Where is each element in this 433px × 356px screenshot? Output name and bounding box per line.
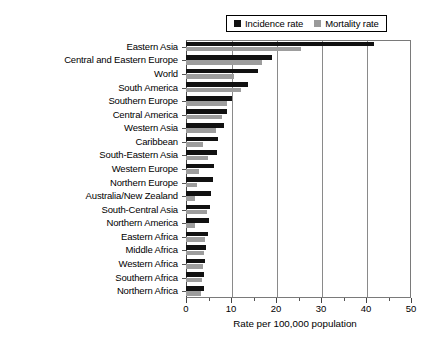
bar-mortality (186, 60, 262, 65)
bar-row (186, 149, 411, 163)
y-axis-label-row: Central America (0, 108, 182, 122)
bar-mortality (186, 88, 241, 93)
legend-item-incidence-rate: Incidence rate (234, 19, 303, 29)
bar-mortality (186, 183, 197, 188)
y-axis-label: Northern Africa (117, 286, 178, 296)
y-axis-label-row: Northern Europe (0, 176, 182, 190)
bar-mortality (186, 74, 234, 79)
chart-container: Incidence rate Mortality rate Eastern As… (0, 0, 433, 356)
bar-incidence (186, 69, 258, 74)
y-axis-label: Eastern Asia (126, 42, 178, 52)
bar-incidence (186, 286, 204, 291)
x-axis-tick-label: 50 (406, 304, 417, 314)
bar-incidence (186, 232, 208, 237)
bar-incidence (186, 218, 209, 223)
x-axis-tick-minor (389, 298, 390, 301)
bar-row (186, 203, 411, 217)
legend-swatch-incidence-icon (234, 20, 241, 27)
legend-swatch-mortality-icon (314, 20, 321, 27)
bar-mortality (186, 156, 208, 161)
y-axis-label-row: Western Europe (0, 162, 182, 176)
x-axis-tick-minor (344, 298, 345, 301)
y-axis-label: Southern Africa (115, 273, 178, 283)
bar-incidence (186, 259, 205, 264)
bar-mortality (186, 237, 205, 242)
bar-row (186, 244, 411, 258)
y-axis-label: Central America (113, 110, 178, 120)
bar-incidence (186, 272, 204, 277)
bar-incidence (186, 109, 227, 114)
bar-mortality (186, 278, 202, 283)
y-axis-label: Western Europe (112, 164, 178, 174)
bar-mortality (186, 196, 195, 201)
x-axis-tick-minor (299, 298, 300, 301)
y-axis-label: Western Asia (124, 123, 178, 133)
bar-series-group (186, 40, 411, 298)
bar-row (186, 189, 411, 203)
bar-row (186, 217, 411, 231)
legend-item-mortality-rate: Mortality rate (314, 19, 379, 29)
chart-legend: Incidence rate Mortality rate (226, 15, 387, 32)
y-axis-label: South-Eastern Asia (99, 150, 178, 160)
bar-row (186, 108, 411, 122)
x-axis-tick-label: 20 (271, 304, 282, 314)
y-axis-label-row: Southern Africa (0, 271, 182, 285)
y-axis-label: South America (118, 83, 178, 93)
y-axis-label: South-Central Asia (101, 205, 178, 215)
bar-incidence (186, 164, 214, 169)
bar-incidence (186, 191, 211, 196)
bar-incidence (186, 205, 210, 210)
bar-mortality (186, 101, 227, 106)
bar-row (186, 94, 411, 108)
y-axis-label-row: Eastern Asia (0, 40, 182, 54)
y-axis-label: Northern America (106, 218, 178, 228)
bar-mortality (186, 47, 301, 52)
bar-row (186, 271, 411, 285)
bar-incidence (186, 96, 232, 101)
bar-incidence (186, 82, 248, 87)
y-axis-label-row: Central and Eastern Europe (0, 54, 182, 68)
y-axis-label: Middle Africa (126, 245, 178, 255)
y-axis-label: World (154, 69, 178, 79)
y-axis-label: Western Africa (119, 259, 179, 269)
bar-row (186, 257, 411, 271)
y-axis-label-row: World (0, 67, 182, 81)
bar-mortality (186, 115, 222, 120)
bar-row (186, 81, 411, 95)
bar-incidence (186, 137, 218, 142)
y-axis-category-labels: Eastern AsiaCentral and Eastern EuropeWo… (0, 40, 182, 298)
bar-mortality (186, 142, 203, 147)
y-axis-label: Eastern Africa (121, 232, 178, 242)
x-axis-tick-minor (254, 298, 255, 301)
x-axis: Rate per 100,000 population 01020304050 (186, 298, 412, 338)
y-axis-label-row: Australia/New Zealand (0, 189, 182, 203)
y-axis-label-row: Northern America (0, 217, 182, 231)
y-axis-label: Caribbean (136, 137, 179, 147)
bar-row (186, 162, 411, 176)
y-axis-label-row: Western Asia (0, 121, 182, 135)
bar-mortality (186, 128, 216, 133)
x-axis-tick-minor (209, 298, 210, 301)
y-axis-label-row: Middle Africa (0, 244, 182, 258)
y-axis-label-row: Caribbean (0, 135, 182, 149)
y-axis-label-row: South-Eastern Asia (0, 149, 182, 163)
bar-row (186, 176, 411, 190)
y-axis-label: Northern Europe (110, 178, 178, 188)
y-axis-label-row: Northern Africa (0, 284, 182, 298)
y-axis-label-row: Southern Europe (0, 94, 182, 108)
bar-mortality (186, 169, 199, 174)
bar-row (186, 284, 411, 298)
bar-mortality (186, 264, 203, 269)
bar-mortality (186, 210, 207, 215)
bar-incidence (186, 55, 272, 60)
x-axis-tick-label: 0 (183, 304, 188, 314)
x-axis-tick-label: 30 (316, 304, 327, 314)
y-axis-label-row: Western Africa (0, 257, 182, 271)
bar-incidence (186, 245, 206, 250)
legend-label-mortality: Mortality rate (325, 19, 379, 29)
bar-row (186, 135, 411, 149)
y-axis-label-row: South America (0, 81, 182, 95)
y-axis-label: Central and Eastern Europe (64, 55, 178, 65)
x-axis-tick-label: 10 (226, 304, 237, 314)
bar-mortality (186, 291, 201, 296)
